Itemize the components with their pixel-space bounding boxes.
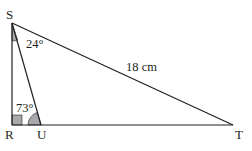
vertex-label-u: U <box>37 127 47 142</box>
angle-label-u: 73° <box>16 101 34 115</box>
angle-label-s: 24° <box>26 37 44 51</box>
vertex-label-t: T <box>235 127 243 142</box>
side-st <box>12 23 233 125</box>
vertex-label-r: R <box>5 127 14 142</box>
triangle-diagram: S R U T 24° 73° 18 cm <box>0 0 252 151</box>
side-label-st: 18 cm <box>126 60 157 74</box>
vertex-label-s: S <box>6 7 13 22</box>
right-angle-marker-r <box>12 115 22 125</box>
